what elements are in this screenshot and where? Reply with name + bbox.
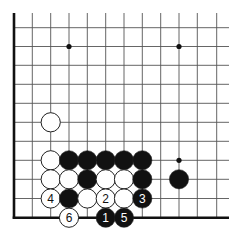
black-stone xyxy=(78,170,97,189)
star-point-icon xyxy=(66,44,71,49)
move-number: 5 xyxy=(121,211,128,225)
white-stone-icon xyxy=(114,189,133,208)
black-stone xyxy=(169,170,188,189)
black-stone xyxy=(114,151,133,170)
white-stone xyxy=(41,170,60,189)
black-stone xyxy=(133,170,152,189)
black-stone-move-3: 3 xyxy=(133,189,152,208)
white-stone-icon xyxy=(41,151,60,170)
stones: 423615 xyxy=(41,113,189,228)
black-stone-icon xyxy=(78,151,97,170)
black-stone-icon xyxy=(78,170,97,189)
white-stone-move-2: 2 xyxy=(96,189,115,208)
black-stone-move-1: 1 xyxy=(96,208,115,227)
black-stone xyxy=(59,189,78,208)
white-stone-move-4: 4 xyxy=(41,189,60,208)
star-point-icon xyxy=(176,44,181,49)
move-number: 2 xyxy=(102,192,109,206)
black-stone-icon xyxy=(59,189,78,208)
white-stone-move-6: 6 xyxy=(59,208,78,227)
white-stone xyxy=(96,170,115,189)
black-stone xyxy=(59,151,78,170)
white-stone xyxy=(41,113,60,132)
go-board: 423615 xyxy=(0,0,240,240)
move-number: 3 xyxy=(139,192,146,206)
white-stone xyxy=(114,189,133,208)
white-stone xyxy=(78,189,97,208)
black-stone-icon xyxy=(133,151,152,170)
star-point-icon xyxy=(176,158,181,163)
black-stone xyxy=(133,151,152,170)
black-stone-icon xyxy=(96,151,115,170)
black-stone-icon xyxy=(169,170,188,189)
white-stone-icon xyxy=(59,170,78,189)
white-stone xyxy=(59,170,78,189)
white-stone-icon xyxy=(114,170,133,189)
move-number: 6 xyxy=(66,211,73,225)
black-stone-move-5: 5 xyxy=(114,208,133,227)
black-stone xyxy=(96,151,115,170)
black-stone xyxy=(78,151,97,170)
black-stone-icon xyxy=(59,151,78,170)
black-stone-icon xyxy=(133,170,152,189)
white-stone-icon xyxy=(78,189,97,208)
white-stone-icon xyxy=(96,170,115,189)
white-stone-icon xyxy=(41,113,60,132)
move-number: 4 xyxy=(47,192,54,206)
white-stone xyxy=(114,170,133,189)
white-stone-icon xyxy=(41,170,60,189)
move-number: 1 xyxy=(102,211,109,225)
black-stone-icon xyxy=(114,151,133,170)
white-stone xyxy=(41,151,60,170)
